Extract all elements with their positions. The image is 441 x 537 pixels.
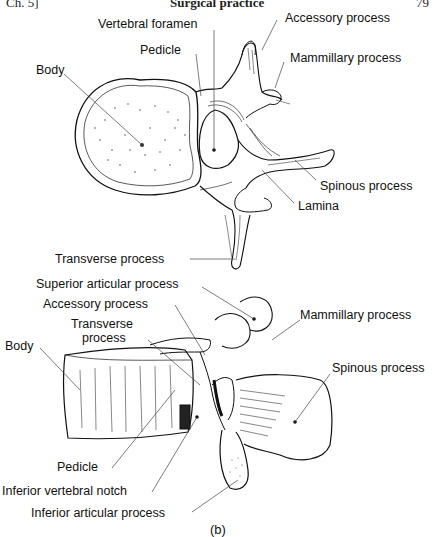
label-inferior-articular-process: Inferior articular process [31, 507, 165, 520]
label-vertebral-foramen: Vertebral foramen [98, 18, 197, 31]
label-mammillary-process-top: Mammillary process [290, 52, 401, 65]
label-inferior-vertebral-notch: Inferior vertebral notch [2, 485, 127, 498]
label-mammillary-process-side: Mammillary process [300, 309, 411, 322]
label-transverse-process-side-line2: process [82, 332, 126, 345]
label-pedicle-side: Pedicle [57, 461, 98, 474]
vertebra-illustration [0, 0, 441, 537]
label-spinous-process-top: Spinous process [320, 180, 412, 193]
label-accessory-process-side: Accessory process [43, 298, 148, 311]
label-accessory-process-top: Accessory process [285, 12, 390, 25]
top-view-vertebra [75, 41, 334, 269]
label-body-side: Body [5, 340, 34, 353]
label-transverse-process-side-line1: Transverse [71, 318, 133, 331]
label-pedicle-top: Pedicle [140, 44, 181, 57]
label-transverse-process-top: Transverse process [55, 253, 164, 266]
label-spinous-process-side: Spinous process [332, 362, 424, 375]
top-view-leaders [64, 20, 316, 259]
label-superior-articular-process: Superior articular process [36, 278, 178, 291]
label-lamina: Lamina [298, 200, 339, 213]
figure-caption: (b) [210, 522, 226, 537]
label-body-top: Body [36, 64, 65, 77]
